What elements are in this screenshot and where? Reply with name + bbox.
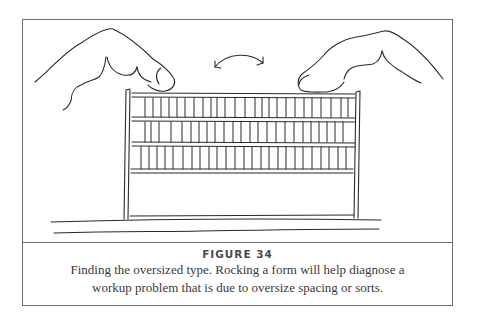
left-hand-icon <box>35 29 175 110</box>
base-surface-icon <box>51 219 381 233</box>
rocking-arrow-icon <box>215 55 263 68</box>
figure-frame: FIGURE 34 Finding the oversized type. Ro… <box>22 19 453 306</box>
caption-line-2: workup problem that is due to oversize s… <box>23 280 452 296</box>
right-hand-icon <box>298 31 443 92</box>
figure-caption: FIGURE 34 Finding the oversized type. Ro… <box>23 245 452 296</box>
caption-line-1: Finding the oversized type. Rocking a fo… <box>23 262 452 278</box>
caption-divider <box>23 242 452 243</box>
figure-label: FIGURE 34 <box>23 248 452 260</box>
figure-illustration <box>23 20 452 242</box>
type-form-icon <box>124 89 360 219</box>
